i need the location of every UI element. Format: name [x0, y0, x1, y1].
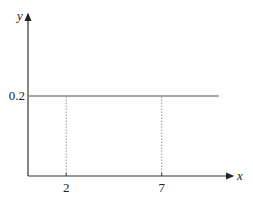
- chart: 270.2 x y: [0, 0, 253, 200]
- y-axis-label: y: [15, 8, 23, 23]
- x-tick-label: 7: [158, 180, 165, 195]
- x-axis-label: x: [236, 168, 243, 183]
- x-tick-label: 2: [63, 180, 70, 195]
- y-tick-label: 0.2: [9, 88, 25, 103]
